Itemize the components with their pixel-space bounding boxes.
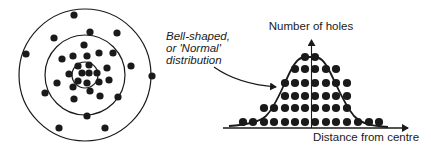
hole-dot	[109, 49, 116, 56]
histogram-dot	[311, 79, 319, 87]
ring-outer	[19, 9, 151, 141]
hole-dot	[86, 87, 93, 94]
target-diagram	[19, 9, 156, 141]
hole-dot	[85, 69, 92, 76]
figure: Bell-shaped, or 'Normal' distribution Nu…	[0, 0, 431, 152]
histogram-dot	[301, 104, 309, 112]
histogram-dot	[343, 118, 351, 126]
histogram-dot	[311, 104, 319, 112]
histogram-dot	[332, 65, 340, 73]
annotation-line-3: distribution	[166, 54, 222, 66]
histogram-dot	[291, 92, 299, 100]
hole-dot	[114, 93, 121, 100]
hole-dot	[65, 70, 72, 77]
hole-dot	[74, 77, 81, 84]
hole-dot	[83, 79, 90, 86]
hole-dot	[69, 52, 76, 59]
hole-dot	[50, 34, 57, 41]
annotation-line-2: or 'Normal'	[166, 42, 222, 54]
histogram-dot	[322, 92, 330, 100]
histogram-dot	[343, 79, 351, 87]
hole-dot	[83, 112, 90, 119]
histogram-dot	[301, 118, 309, 126]
hole-dot	[78, 69, 85, 76]
histogram-dot	[332, 92, 340, 100]
hole-dot	[113, 29, 120, 36]
histogram-dot	[332, 104, 340, 112]
hole-dot	[148, 72, 155, 79]
histogram-dot	[281, 118, 289, 126]
hole-dot	[85, 61, 92, 68]
histogram-dot	[291, 79, 299, 87]
hole-dot	[96, 92, 103, 99]
histogram-dot	[281, 104, 289, 112]
hole-dot	[83, 52, 90, 59]
hole-dot	[69, 83, 76, 90]
hole-dot	[53, 79, 60, 86]
histogram-dot	[311, 92, 319, 100]
histogram-dot	[311, 118, 319, 126]
hole-dot	[41, 89, 48, 96]
histogram-dot	[332, 118, 340, 126]
histogram-dot	[322, 79, 330, 87]
target-rings	[19, 9, 151, 141]
hole-dot	[105, 76, 112, 83]
histogram-dot	[375, 118, 383, 126]
hole-dot	[74, 62, 81, 69]
histogram-dot	[291, 104, 299, 112]
histogram-dot	[301, 92, 309, 100]
hole-dot	[127, 62, 134, 69]
hole-dot	[58, 55, 65, 62]
hole-dot	[101, 124, 108, 131]
target-holes	[22, 11, 155, 131]
histogram-dot	[301, 65, 309, 73]
pointer-arrow	[214, 67, 276, 87]
histogram-dot	[291, 118, 299, 126]
hole-dot	[70, 95, 77, 102]
hole-dot	[22, 50, 29, 57]
histogram-dot	[281, 92, 289, 100]
histogram-dot	[322, 118, 330, 126]
hole-dot	[70, 11, 77, 18]
hole-dot	[95, 49, 102, 56]
histogram-dot	[311, 65, 319, 73]
annotation-line-1: Bell-shaped,	[166, 30, 230, 42]
hole-dot	[93, 69, 100, 76]
histogram-dot	[260, 104, 268, 112]
hole-dot	[103, 64, 110, 71]
hole-dot	[86, 28, 93, 35]
histogram-dot	[270, 118, 278, 126]
y-axis-label: Number of holes	[269, 20, 354, 32]
histogram-dot	[301, 79, 309, 87]
hole-dot	[80, 41, 87, 48]
hole-dot	[55, 124, 62, 131]
hole-dot	[95, 78, 102, 85]
x-axis-label: Distance from centre	[313, 131, 419, 143]
histogram-dot	[322, 104, 330, 112]
